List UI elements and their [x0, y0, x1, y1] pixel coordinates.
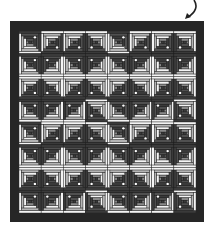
quilt-block [63, 99, 85, 122]
quilt-block [152, 31, 174, 54]
quilt-block [174, 77, 196, 100]
quilt-block [174, 145, 196, 168]
quilt-block [63, 190, 85, 213]
quilt-block [41, 190, 63, 213]
quilt-block [85, 31, 107, 54]
quilt-block [19, 122, 41, 145]
quilt-block [63, 122, 85, 145]
quilt-block [19, 31, 41, 54]
quilt-block [85, 122, 107, 145]
quilt-block [63, 77, 85, 100]
quilt-block [152, 122, 174, 145]
quilt-block [108, 145, 130, 168]
quilt-block [174, 122, 196, 145]
quilt-block [85, 145, 107, 168]
quilt-block [152, 190, 174, 213]
quilt-block [174, 31, 196, 54]
quilt-block [108, 54, 130, 77]
quilt-block [63, 145, 85, 168]
quilt-block [19, 77, 41, 100]
quilt-block [41, 54, 63, 77]
quilt-block [174, 168, 196, 191]
quilt-block [130, 54, 152, 77]
quilt-block [108, 77, 130, 100]
quilt-block [130, 145, 152, 168]
quilt-block [41, 145, 63, 168]
quilt-block [130, 31, 152, 54]
quilt-block [174, 190, 196, 213]
quilt-blocks [19, 31, 196, 213]
quilt-block [174, 54, 196, 77]
quilt-block [108, 190, 130, 213]
quilt-block [108, 168, 130, 191]
quilt-block [152, 168, 174, 191]
quilt-block [41, 99, 63, 122]
quilt-block [85, 77, 107, 100]
quilt-block [63, 54, 85, 77]
quilt-block [108, 99, 130, 122]
quilt-block [63, 31, 85, 54]
quilt-block [85, 168, 107, 191]
quilt-block [152, 54, 174, 77]
curved-arrow-down-left-icon [180, 0, 204, 22]
quilt-block [108, 31, 130, 54]
quilt-block [63, 168, 85, 191]
quilt-block [19, 54, 41, 77]
quilt-block [174, 99, 196, 122]
quilt-block [41, 122, 63, 145]
quilt-block [41, 31, 63, 54]
quilt-block [19, 99, 41, 122]
quilt-block [19, 145, 41, 168]
quilt-block [130, 77, 152, 100]
quilt-block [19, 190, 41, 213]
quilt-block [85, 99, 107, 122]
quilt-block [41, 168, 63, 191]
quilt-block [108, 122, 130, 145]
quilt-block [85, 54, 107, 77]
quilt-block [152, 77, 174, 100]
quilt-block [19, 168, 41, 191]
quilt-block [130, 190, 152, 213]
quilt-block [152, 99, 174, 122]
quilt-block [152, 145, 174, 168]
quilt-block [130, 122, 152, 145]
quilt-block [41, 77, 63, 100]
quilt-block [130, 99, 152, 122]
quilt-block [85, 190, 107, 213]
quilt-block [130, 168, 152, 191]
